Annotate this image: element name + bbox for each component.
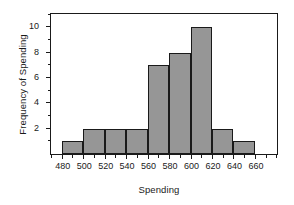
histogram-bar (105, 129, 126, 154)
histogram-bar (233, 141, 254, 154)
x-axis-tick-label: 520 (98, 161, 113, 171)
x-axis-tick: 480 (62, 154, 63, 159)
x-axis-minor-tick (94, 154, 95, 158)
y-axis-tick-label: 6 (34, 72, 39, 82)
y-axis-minor-tick (48, 39, 52, 40)
histogram-bar (148, 65, 169, 154)
x-axis-minor-tick (115, 154, 116, 158)
histogram-bar (191, 27, 212, 154)
y-axis-minor-tick (48, 64, 52, 65)
y-axis-tick-label: 4 (34, 97, 39, 107)
x-axis-tick-label: 500 (77, 161, 92, 171)
plot-inner: 246810480500520540560580600620640660 (51, 14, 277, 154)
y-axis-tick: 10 (46, 26, 51, 27)
x-axis-tick-label: 540 (120, 161, 135, 171)
y-axis-tick: 2 (46, 128, 51, 129)
y-axis-tick: 6 (46, 77, 51, 78)
y-axis-tick-label: 10 (29, 21, 39, 31)
x-axis-minor-tick (158, 154, 159, 158)
x-axis-tick-label: 580 (163, 161, 178, 171)
x-axis-tick-label: 640 (227, 161, 242, 171)
x-axis-minor-tick (244, 154, 245, 158)
y-axis-title: Frequency of Spending (17, 15, 28, 155)
x-axis-minor-tick (276, 154, 277, 158)
x-axis-tick: 520 (105, 154, 106, 159)
x-axis-tick: 660 (255, 154, 256, 159)
x-axis-tick: 500 (83, 154, 84, 159)
x-axis-minor-tick (223, 154, 224, 158)
x-axis-tick: 600 (191, 154, 192, 159)
x-axis-tick-label: 620 (205, 161, 220, 171)
y-axis-tick-label: 2 (34, 123, 39, 133)
x-axis-tick: 560 (148, 154, 149, 159)
plot-area: 246810480500520540560580600620640660 (50, 13, 278, 155)
histogram-figure: Frequency of Spending 246810480500520540… (0, 0, 294, 205)
y-axis-minor-tick (48, 115, 52, 116)
x-axis-tick: 540 (126, 154, 127, 159)
x-axis-tick-label: 660 (248, 161, 263, 171)
y-axis-tick-label: 8 (34, 47, 39, 57)
x-axis-minor-tick (266, 154, 267, 158)
x-axis-minor-tick (180, 154, 181, 158)
histogram-bar (169, 53, 190, 154)
x-axis-tick-label: 480 (55, 161, 70, 171)
y-axis-minor-tick (48, 90, 52, 91)
x-axis-minor-tick (72, 154, 73, 158)
x-axis-tick: 640 (233, 154, 234, 159)
x-axis-minor-tick (51, 154, 52, 158)
histogram-bar (212, 129, 233, 154)
x-axis-minor-tick (137, 154, 138, 158)
x-axis-tick-label: 560 (141, 161, 156, 171)
histogram-bar (126, 129, 147, 154)
x-axis-title: Spending (47, 184, 271, 195)
histogram-bar (83, 129, 104, 154)
y-axis-tick: 4 (46, 102, 51, 103)
x-axis-minor-tick (201, 154, 202, 158)
y-axis-tick: 8 (46, 52, 51, 53)
y-axis-minor-tick (48, 140, 52, 141)
x-axis-tick-label: 600 (184, 161, 199, 171)
histogram-bar (62, 141, 83, 154)
x-axis-tick: 580 (169, 154, 170, 159)
x-axis-tick: 620 (212, 154, 213, 159)
y-axis-minor-tick (48, 14, 52, 15)
